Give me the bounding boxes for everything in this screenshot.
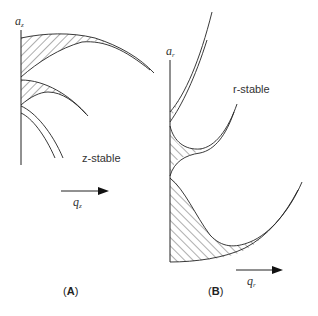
stability-diagram [0,0,318,316]
panel-a-band-3-upper-curve [21,106,63,158]
panel-b-band-2-upper-curve [170,104,237,149]
panel-b-x-arrow-head [272,266,283,274]
caption-paren: ) [220,285,224,297]
panel-b-region-label: r-stable [233,83,270,95]
panel-b-y-label-sub: r [172,51,175,59]
panel-a-band-1-fill [21,34,118,77]
caption-paren: ) [75,285,79,297]
panel-b-band-2-fill [170,126,206,176]
panel-b-x-label-sub: r [253,281,256,289]
panel-a-band-3-lower-curve [21,113,55,158]
caption-letter: B [212,285,220,297]
caption-letter: A [67,285,75,297]
panel-b-band-3-fill [170,178,265,262]
panel-b [170,12,302,274]
panel-b-band-1-lower-curve [170,40,207,122]
panel-b-band-2-lower-curve [170,112,234,176]
panel-a-y-axis-label: az [15,14,24,29]
panel-b-caption: (B) [208,285,223,297]
panel-b-band-1-upper-curve [170,12,212,112]
panel-a-caption: (A) [63,285,78,297]
panel-a-y-label-sub: z [21,21,24,29]
panel-a-x-label-sub: z [79,202,82,210]
panel-b-y-axis-label: ar [166,44,175,59]
panel-a-x-axis-label: qz [73,195,82,210]
panel-a [21,30,154,195]
panel-b-band-1-fill [170,92,184,122]
panel-a-x-arrow-head [98,187,109,195]
panel-b-x-axis-label: qr [247,274,256,289]
panel-a-region-label: z-stable [82,152,121,164]
